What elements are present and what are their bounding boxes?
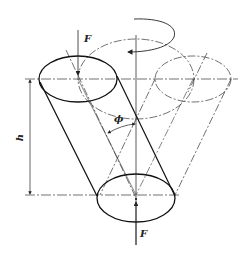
angle-label: ϕ — [114, 113, 123, 124]
cylinder-axis — [66, 50, 136, 198]
angle-arc — [108, 124, 135, 133]
cylinder-side-right — [117, 76, 175, 196]
force-label-bottom: F — [140, 228, 147, 239]
height-label: h — [14, 134, 25, 141]
cylinder-side-left — [40, 82, 97, 196]
rotation-arrow — [128, 19, 175, 52]
cylinder-precession-diagram — [0, 0, 250, 258]
force-label-top: F — [84, 33, 91, 44]
